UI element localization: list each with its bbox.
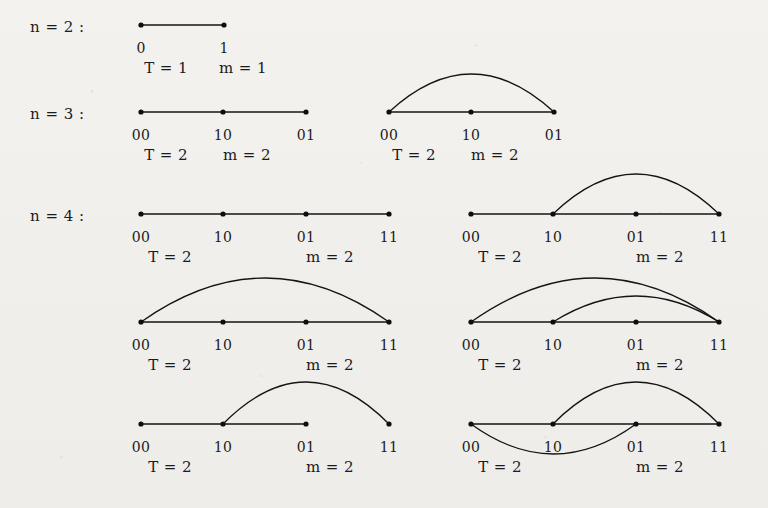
graph-vertex bbox=[468, 109, 473, 114]
stat-T: T = 2 bbox=[478, 358, 522, 373]
vertex-label: 00 bbox=[462, 440, 480, 454]
graph-vertex bbox=[716, 319, 721, 324]
stat-T: T = 1 bbox=[144, 61, 188, 76]
graph-vertex bbox=[386, 319, 391, 324]
stat-T: T = 2 bbox=[144, 148, 188, 163]
vertex-label: 00 bbox=[380, 128, 398, 142]
row-label-n4: n = 4 : bbox=[30, 209, 85, 224]
stat-T: T = 2 bbox=[148, 358, 192, 373]
graph-vertex bbox=[386, 421, 391, 426]
graph-g4 bbox=[138, 211, 391, 216]
vertex-label: 01 bbox=[297, 338, 315, 352]
graph-g6 bbox=[138, 278, 391, 325]
vertex-label: 10 bbox=[214, 128, 232, 142]
graph-arc bbox=[553, 382, 719, 424]
vertex-label: 01 bbox=[627, 230, 645, 244]
graph-vertex bbox=[303, 109, 308, 114]
graph-arc bbox=[141, 278, 389, 322]
vertex-label: 01 bbox=[545, 128, 563, 142]
graph-vertex bbox=[716, 421, 721, 426]
graph-arc bbox=[471, 278, 719, 322]
vertex-label: 01 bbox=[297, 230, 315, 244]
graph-arc bbox=[553, 296, 719, 322]
stat-T: T = 2 bbox=[392, 148, 436, 163]
graph-vertex bbox=[633, 421, 638, 426]
vertex-label: 11 bbox=[710, 338, 728, 352]
stat-m: m = 2 bbox=[636, 358, 684, 373]
vertex-label: 0 bbox=[136, 41, 145, 55]
graph-arc bbox=[389, 74, 554, 112]
graph-vertex bbox=[138, 319, 143, 324]
vertex-label: 11 bbox=[380, 440, 398, 454]
graph-g9 bbox=[468, 382, 721, 454]
graph-vertex bbox=[221, 22, 226, 27]
stat-m: m = 2 bbox=[306, 460, 354, 475]
vertex-label: 00 bbox=[462, 230, 480, 244]
vertex-label: 1 bbox=[219, 41, 228, 55]
graph-vertex bbox=[386, 109, 391, 114]
graph-vertex bbox=[468, 319, 473, 324]
stat-T: T = 2 bbox=[148, 250, 192, 265]
vertex-label: 10 bbox=[544, 230, 562, 244]
vertex-label: 01 bbox=[297, 440, 315, 454]
vertex-label: 10 bbox=[214, 440, 232, 454]
vertex-label: 11 bbox=[710, 440, 728, 454]
stat-T: T = 2 bbox=[478, 460, 522, 475]
graph-vertex bbox=[550, 421, 555, 426]
graph-vertex bbox=[386, 211, 391, 216]
graph-vertex bbox=[138, 109, 143, 114]
vertex-label: 11 bbox=[380, 338, 398, 352]
stat-m: m = 2 bbox=[223, 148, 271, 163]
graph-vertex bbox=[303, 319, 308, 324]
vertex-label: 10 bbox=[462, 128, 480, 142]
graph-g7 bbox=[468, 278, 721, 325]
graph-vertex bbox=[633, 319, 638, 324]
vertex-label: 10 bbox=[544, 440, 562, 454]
vertex-label: 00 bbox=[132, 128, 150, 142]
stat-T: T = 2 bbox=[148, 460, 192, 475]
row-label-n2: n = 2 : bbox=[30, 20, 85, 35]
graph-vertex bbox=[468, 421, 473, 426]
vertex-label: 10 bbox=[544, 338, 562, 352]
graph-vertex bbox=[303, 421, 308, 426]
stat-m: m = 2 bbox=[471, 148, 519, 163]
vertex-label: 00 bbox=[132, 338, 150, 352]
graph-arc bbox=[223, 382, 389, 424]
graph-g3 bbox=[386, 74, 556, 115]
graph-vertex bbox=[220, 109, 225, 114]
stat-m: m = 2 bbox=[306, 358, 354, 373]
graph-vertex bbox=[220, 211, 225, 216]
graph-g5 bbox=[468, 174, 721, 217]
graph-vertex bbox=[138, 211, 143, 216]
graph-vertex bbox=[220, 319, 225, 324]
graph-arc bbox=[553, 174, 719, 214]
graph-vertex bbox=[716, 211, 721, 216]
graph-vertex bbox=[551, 109, 556, 114]
graph-vertex bbox=[550, 211, 555, 216]
graph-vertex bbox=[633, 211, 638, 216]
vertex-label: 01 bbox=[297, 128, 315, 142]
stat-T: T = 2 bbox=[478, 250, 522, 265]
vertex-label: 11 bbox=[380, 230, 398, 244]
stat-m: m = 1 bbox=[219, 61, 267, 76]
graph-vertex bbox=[303, 211, 308, 216]
graph-g2 bbox=[138, 109, 308, 114]
vertex-label: 01 bbox=[627, 440, 645, 454]
row-label-n3: n = 3 : bbox=[30, 107, 85, 122]
graph-g8 bbox=[138, 382, 391, 427]
stat-m: m = 2 bbox=[636, 250, 684, 265]
graph-vertex bbox=[468, 211, 473, 216]
vertex-label: 11 bbox=[710, 230, 728, 244]
vertex-label: 00 bbox=[462, 338, 480, 352]
stat-m: m = 2 bbox=[306, 250, 354, 265]
graph-vertex bbox=[138, 421, 143, 426]
vertex-label: 10 bbox=[214, 230, 232, 244]
stat-m: m = 2 bbox=[636, 460, 684, 475]
vertex-label: 10 bbox=[214, 338, 232, 352]
vertex-label: 01 bbox=[627, 338, 645, 352]
graph-vertex bbox=[220, 421, 225, 426]
graph-vertex bbox=[550, 319, 555, 324]
vertex-label: 00 bbox=[132, 230, 150, 244]
graph-g1 bbox=[138, 22, 226, 27]
graph-vertex bbox=[138, 22, 143, 27]
